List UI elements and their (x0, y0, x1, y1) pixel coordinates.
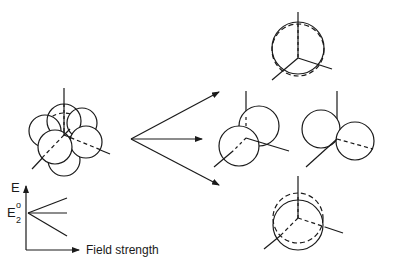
panel-middle-right (302, 91, 374, 167)
panel-middle-left (214, 91, 289, 167)
panel-top (272, 12, 332, 80)
lobe-icon (38, 130, 72, 164)
energy-plot (26, 186, 79, 250)
energy-axis-label: E (11, 180, 20, 195)
diagram-canvas (0, 0, 393, 271)
arrow-to-bottom (131, 139, 219, 185)
arrow-to-top (131, 92, 219, 139)
lobe-icon (70, 126, 102, 158)
unperturbed-cluster (29, 88, 110, 176)
level-label-base: E (7, 205, 16, 220)
level-up (28, 198, 67, 213)
panel-bottom (264, 176, 343, 250)
level-label-sub: 2 (16, 215, 21, 225)
level-label: E2o (7, 205, 16, 220)
field-strength-label: Field strength (86, 243, 159, 257)
level-label-sup: o (16, 200, 21, 210)
level-down (28, 213, 67, 236)
